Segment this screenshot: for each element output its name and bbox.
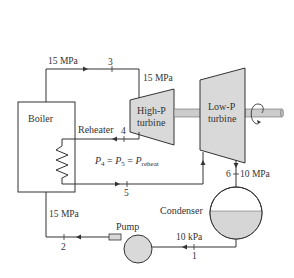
pressure-condenser-exit: 10 kPa (176, 232, 203, 242)
pump-outlet (109, 234, 121, 240)
lp-turbine-label-1: Low-P (208, 101, 236, 112)
pressure-pump-exit: 15 MPa (49, 209, 80, 219)
line-2-3 (46, 69, 139, 102)
flow-arrow-icon (182, 245, 187, 250)
pump-label: Pump (116, 221, 139, 232)
flow-arrow-icon (112, 137, 117, 142)
flow-arrow-icon (83, 67, 88, 72)
pump (124, 235, 152, 263)
state-4-label: 4 (121, 126, 126, 136)
shaft (174, 109, 201, 117)
lp-turbine-label-2: turbine (208, 113, 237, 124)
pressure-lp-exit: 10 MPa (240, 169, 271, 179)
condenser-water (208, 211, 264, 241)
hp-turbine-label-1: High-P (137, 105, 166, 116)
flow-arrow-icon (76, 235, 81, 240)
state-5-label: 5 (124, 188, 129, 198)
state-3-label: 3 (108, 57, 113, 67)
state-2-label: 2 (61, 242, 66, 252)
flow-arrow-icon (115, 182, 120, 187)
pressure-hp-inlet: 15 MPa (143, 73, 174, 83)
reheater-label: Reheater (78, 124, 114, 135)
state-1-label: 1 (192, 251, 197, 261)
boiler-label: Boiler (28, 113, 54, 124)
pressure-boiler-exit: 15 MPa (48, 56, 79, 66)
reheat-rankine-diagram: Boiler 15 MPa 3 15 MPa High-P turbine Lo… (0, 0, 294, 278)
reheat-pressure-equation: P4 = P5 = Preheat (94, 155, 159, 168)
hp-turbine-label-2: turbine (137, 117, 166, 128)
flow-arrow-icon (201, 160, 206, 165)
state-6-label: 6 (226, 169, 231, 179)
flow-arrow-icon (234, 163, 239, 168)
condenser-label: Condenser (160, 205, 203, 216)
